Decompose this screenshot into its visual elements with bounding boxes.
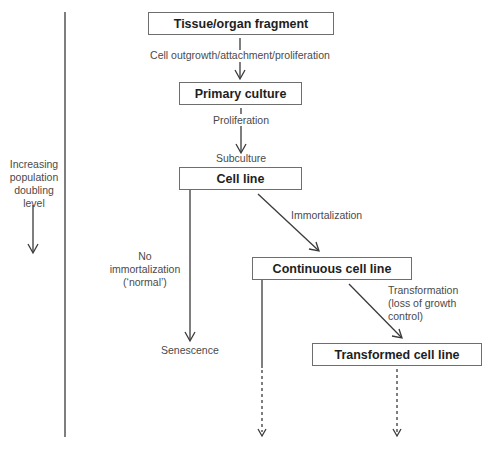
label-line: population [2,171,66,184]
label-line: doubling [2,184,66,197]
label-line: Transformation [388,284,458,297]
label-line: immortalization [105,263,185,276]
node-cell-line: Cell line [179,167,302,190]
edge-label-no-immortalization: No immortalization (‘normal’) [105,250,185,289]
label-line: No [105,250,185,263]
edge-label-proliferation: Proliferation [200,114,282,127]
label-line: Increasing [2,158,66,171]
edge-label-transformation: Transformation (loss of growth control) [388,284,458,323]
label-line: (loss of growth [388,297,458,310]
diagram-connectors [0,0,494,451]
label-line: level [2,197,66,210]
node-tissue-organ-fragment: Tissue/organ fragment [148,12,334,35]
node-transformed-cell-line: Transformed cell line [312,343,482,366]
node-primary-culture: Primary culture [179,82,302,105]
label-line: control) [388,310,458,323]
edge-label-senescence: Senescence [161,344,219,357]
edge-label-immortalization: Immortalization [291,209,362,222]
edge-label-outgrowth: Cell outgrowth/attachment/proliferation [140,49,340,62]
label-line: (‘normal’) [105,276,185,289]
doubling-level-label: Increasing population doubling level [2,158,66,210]
edge-label-subculture: Subculture [200,152,282,165]
node-continuous-cell-line: Continuous cell line [252,257,412,280]
